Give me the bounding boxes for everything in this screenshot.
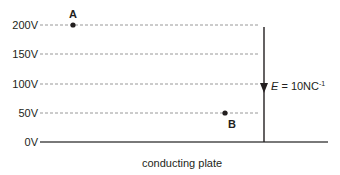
point-a-label: A: [69, 8, 77, 20]
field-strength-label: E = 10NC-1: [271, 80, 325, 92]
point-b-label: B: [228, 118, 236, 130]
potential-label-200v: 200V: [2, 19, 38, 31]
conducting-plate-label: conducting plate: [142, 157, 222, 169]
field-value: = 10NC: [278, 80, 319, 92]
potential-label-0v: 0V: [2, 136, 38, 148]
potential-label-100v: 100V: [2, 78, 38, 90]
potential-label-150v: 150V: [2, 48, 38, 60]
point-b-dot: [222, 110, 227, 115]
point-a-dot: [70, 22, 75, 27]
field-exponent: -1: [319, 80, 325, 87]
field-arrow-down-icon: [260, 83, 268, 93]
potential-label-50v: 50V: [2, 107, 38, 119]
